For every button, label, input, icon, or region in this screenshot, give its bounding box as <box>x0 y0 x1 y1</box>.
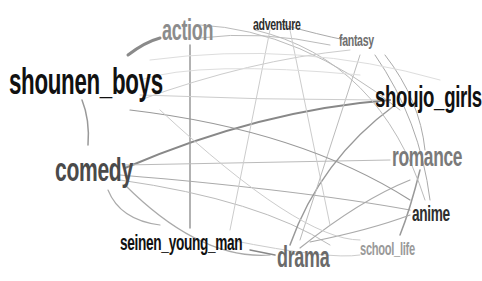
edge <box>128 38 160 55</box>
edge <box>125 160 390 165</box>
node-adventure: adventure <box>253 16 301 33</box>
edge <box>140 95 380 100</box>
node-school-life: school_life <box>360 240 415 258</box>
edge <box>108 190 160 225</box>
node-fantasy: fantasy <box>339 32 374 49</box>
edge <box>140 69 360 80</box>
node-shounen-boys: shounen_boys <box>9 64 163 100</box>
node-drama: drama <box>277 243 329 272</box>
node-comedy: comedy <box>55 152 133 186</box>
node-shoujo-girls: shoujo_girls <box>375 82 482 112</box>
edge <box>230 30 270 230</box>
edge <box>250 250 275 255</box>
node-romance: romance <box>392 143 462 171</box>
edge <box>290 105 395 245</box>
node-action: action <box>162 16 213 45</box>
edge <box>375 55 430 200</box>
node-seinen-young-man: seinen_young_man <box>120 232 242 254</box>
node-anime: anime <box>412 203 450 225</box>
edge <box>120 175 410 210</box>
edge <box>255 30 425 200</box>
edge <box>300 55 360 240</box>
edge <box>130 110 410 200</box>
edge <box>82 100 88 145</box>
